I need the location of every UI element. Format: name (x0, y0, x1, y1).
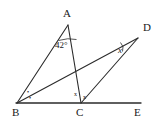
vertex-label-d: D (143, 22, 151, 33)
angle-mark-c-right-icon: x (83, 94, 86, 100)
vertex-label-e: E (134, 107, 141, 118)
angle-mark-b-lower-icon: • (29, 95, 31, 101)
vertex-label-a: A (63, 8, 71, 19)
angle-label-d-x: x (118, 46, 122, 55)
segments-group (16, 25, 141, 103)
vertex-label-b: B (12, 107, 19, 118)
segment-CD (81, 38, 138, 103)
angle-mark-c-left-icon: x (74, 91, 77, 97)
segment-BA (17, 25, 68, 103)
geometry-figure: A B C D E 42° x • • x x (0, 0, 163, 124)
angle-arcs-group (59, 39, 124, 52)
angle-label-a-42: 42° (55, 41, 68, 50)
vertex-label-c: C (76, 107, 83, 118)
